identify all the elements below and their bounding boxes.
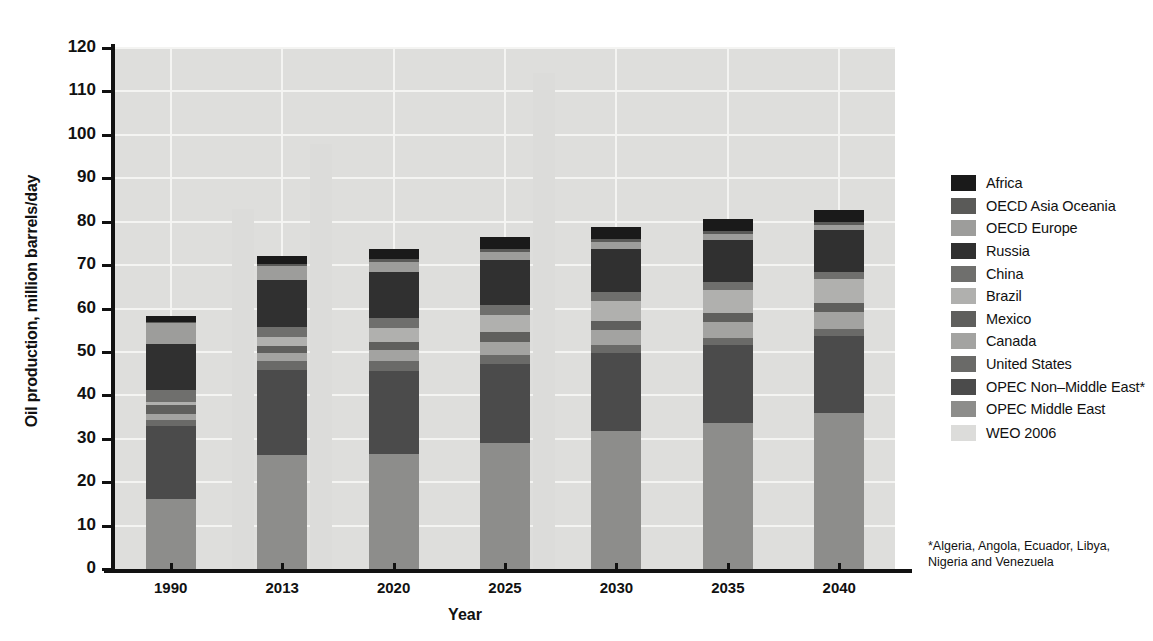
stacked-bar-2040 (814, 210, 864, 569)
y-axis-tick (102, 308, 112, 311)
x-axis-tick (393, 563, 396, 572)
bar-segment-china (480, 305, 530, 315)
y-axis-tick-label: 0 (36, 558, 96, 578)
bar-segment-united-states (257, 361, 307, 370)
bar-segment-canada (480, 342, 530, 355)
y-axis-tick-label: 10 (36, 515, 96, 535)
x-axis-tick-label-2025: 2025 (465, 579, 545, 596)
stacked-bar-2020 (369, 249, 419, 569)
y-axis-tick-label: 30 (36, 428, 96, 448)
x-axis-title: Year (0, 606, 930, 624)
bar-segment-united-states (480, 355, 530, 364)
bar-segment-brazil (591, 301, 641, 321)
legend-item-weo-2006: WEO 2006 (951, 425, 1056, 441)
legend-item-oecd-asia-oceania: OECD Asia Oceania (951, 195, 1151, 218)
y-axis-tick-label: 60 (36, 298, 96, 318)
legend-item-china: China (951, 262, 1151, 285)
legend-label: Mexico (986, 311, 1031, 327)
bar-segment-brazil (369, 328, 419, 342)
weo-2006-overlay-bar (232, 209, 254, 569)
bar-segment-oecd-europe (257, 266, 307, 280)
bar-segment-canada (369, 350, 419, 360)
legend-swatch (951, 401, 976, 417)
y-axis-tick (102, 264, 112, 267)
legend-label: China (986, 266, 1023, 282)
bar-segment-brazil (146, 402, 196, 405)
footnote-line-1: *Algeria, Angola, Ecuador, Libya, (928, 538, 1143, 554)
legend-label: OPEC Middle East (986, 401, 1105, 417)
bar-segment-opec-non-middle-east (480, 364, 530, 443)
y-axis-tick (102, 525, 112, 528)
bar-segment-opec-middle-east (369, 454, 419, 569)
bar-segment-russia (369, 272, 419, 318)
bar-segment-africa (146, 316, 196, 321)
bar-segment-china (591, 292, 641, 301)
plot-area (115, 48, 895, 569)
bar-segment-africa (257, 256, 307, 264)
oil-production-stacked-bar-chart: Oil production, million barrels/day 0102… (0, 0, 1153, 641)
legend-label: Russia (986, 243, 1030, 259)
bar-segment-china (814, 272, 864, 279)
legend-swatch (951, 333, 976, 349)
x-axis-tick-label-2040: 2040 (799, 579, 879, 596)
stacked-bar-2035 (703, 219, 753, 569)
y-axis-tick-label: 100 (36, 124, 96, 144)
legend: AfricaOECD Asia OceaniaOECD EuropeRussia… (951, 172, 1151, 421)
legend-swatch (951, 175, 976, 191)
stacked-bar-2025 (480, 237, 530, 569)
bar-segment-russia (146, 344, 196, 390)
weo-2006-overlay-bar (533, 73, 555, 569)
bar-segment-russia (814, 230, 864, 272)
bar-segment-china (146, 390, 196, 402)
legend-item-mexico: Mexico (951, 308, 1151, 331)
bar-segment-opec-middle-east (814, 413, 864, 569)
legend-swatch (951, 379, 976, 395)
bar-segment-united-states (814, 329, 864, 336)
x-axis-tick-label-2020: 2020 (354, 579, 434, 596)
bar-segment-russia (591, 249, 641, 293)
y-axis-tick (102, 221, 112, 224)
x-axis-tick (727, 563, 730, 572)
legend-swatch (951, 311, 976, 327)
x-axis-line (104, 569, 912, 573)
x-axis-tick (615, 563, 618, 572)
y-axis-tick (102, 47, 112, 50)
bar-segment-opec-non-middle-east (146, 426, 196, 499)
bar-segment-opec-middle-east (146, 499, 196, 569)
y-axis-tick-label: 40 (36, 384, 96, 404)
bar-segment-canada (703, 322, 753, 338)
bar-segment-united-states (369, 361, 419, 371)
x-axis-tick-label-2035: 2035 (688, 579, 768, 596)
bar-segment-brazil (703, 290, 753, 313)
footnote: *Algeria, Angola, Ecuador, Libya, Nigeri… (928, 538, 1143, 570)
y-axis-tick-label: 70 (36, 254, 96, 274)
y-axis-tick (102, 481, 112, 484)
y-axis-tick-label: 90 (36, 167, 96, 187)
bar-segment-brazil (480, 315, 530, 332)
bar-segment-oecd-asia-oceania (814, 222, 864, 225)
bar-segment-mexico (703, 313, 753, 322)
weo-2006-overlay-bar (310, 144, 332, 569)
legend-label: OECD Europe (986, 220, 1078, 236)
stacked-bar-2030 (591, 227, 641, 569)
bar-segment-opec-middle-east (480, 443, 530, 569)
bar-segment-canada (146, 414, 196, 420)
bar-segment-oecd-europe (480, 252, 530, 260)
bar-segment-oecd-asia-oceania (369, 259, 419, 262)
y-axis-tick (102, 177, 112, 180)
bar-segment-russia (257, 280, 307, 326)
legend-item-canada: Canada (951, 330, 1151, 353)
legend-swatch (951, 266, 976, 282)
y-axis-tick (102, 568, 112, 571)
bar-segment-russia (703, 240, 753, 283)
legend-swatch (951, 198, 976, 214)
bar-segment-opec-middle-east (703, 423, 753, 569)
bar-segment-russia (480, 260, 530, 305)
legend-swatch (951, 243, 976, 259)
legend-swatch-weo-2006 (951, 425, 976, 441)
x-axis-tick (281, 563, 284, 572)
legend-swatch (951, 288, 976, 304)
legend-item-russia: Russia (951, 240, 1151, 263)
legend-item-opec-middle-east: OPEC Middle East (951, 398, 1151, 421)
x-axis-tick-label-2013: 2013 (242, 579, 322, 596)
